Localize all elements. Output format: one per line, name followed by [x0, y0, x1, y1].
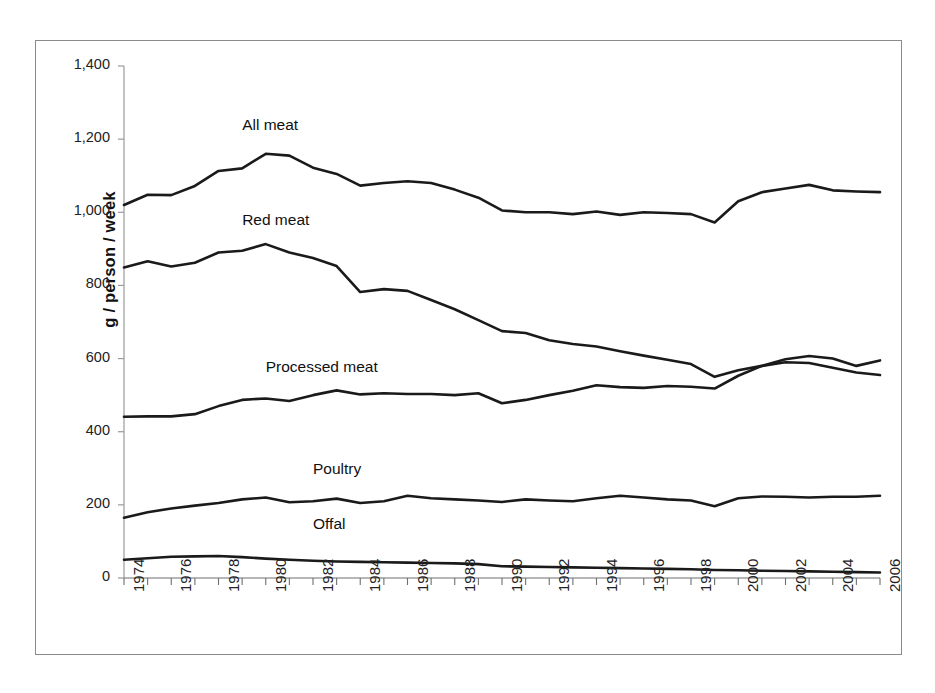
x-tick-label: 1984 [366, 559, 383, 592]
series-line-processed-meat [124, 356, 880, 417]
x-tick-label: 1980 [272, 559, 289, 592]
x-tick-label: 2006 [886, 559, 903, 592]
x-tick-label: 1994 [603, 559, 620, 592]
y-tick-label: 1,200 [46, 129, 110, 145]
x-tick-label: 2000 [744, 559, 761, 592]
x-tick-label: 1978 [225, 559, 242, 592]
y-tick-label: 200 [46, 495, 110, 511]
y-tick-label: 600 [46, 349, 110, 365]
y-tick-label: 800 [46, 275, 110, 291]
x-tick-label: 1992 [555, 559, 572, 592]
x-tick-label: 2004 [839, 559, 856, 592]
x-tick-label: 1990 [508, 559, 525, 592]
x-tick-label: 1982 [319, 559, 336, 592]
chart-series-lines [124, 154, 880, 573]
y-tick-label: 1,400 [46, 56, 110, 72]
x-tick-label: 1974 [130, 559, 147, 592]
y-tick-label: 0 [46, 568, 110, 584]
x-tick-label: 1998 [697, 559, 714, 592]
x-tick-label: 1976 [177, 559, 194, 592]
y-tick-label: 1,000 [46, 202, 110, 218]
figure-container: g / person / week 02004006008001,0001,20… [0, 0, 935, 693]
series-label-processed-meat: Processed meat [266, 358, 378, 376]
x-tick-label: 1986 [414, 559, 431, 592]
series-label-offal: Offal [313, 515, 345, 533]
x-tick-label: 1996 [650, 559, 667, 592]
series-line-all-meat [124, 154, 880, 223]
series-label-poultry: Poultry [313, 460, 361, 478]
x-tick-label: 1988 [461, 559, 478, 592]
series-line-red-meat [124, 244, 880, 377]
series-line-poultry [124, 496, 880, 518]
chart-axes [118, 66, 880, 585]
x-tick-label: 2002 [792, 559, 809, 592]
series-label-red-meat: Red meat [242, 211, 309, 229]
y-tick-label: 400 [46, 422, 110, 438]
series-label-all-meat: All meat [242, 116, 298, 134]
